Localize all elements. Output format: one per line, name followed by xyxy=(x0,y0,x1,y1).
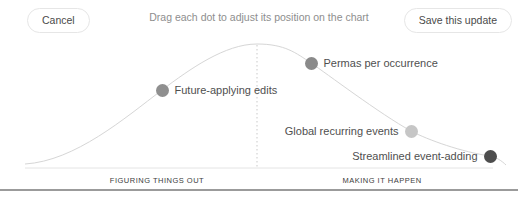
dot-icon[interactable] xyxy=(484,150,497,163)
bell-curve-chart xyxy=(0,0,518,198)
dot-position-editor: Cancel Drag each dot to adjust its posit… xyxy=(0,0,518,198)
dot-icon[interactable] xyxy=(305,57,318,70)
draggable-dot-global-recurring-events[interactable]: Global recurring events xyxy=(285,125,418,138)
dot-label: Streamlined event-adding xyxy=(352,150,477,162)
x-axis-label-figuring-things-out: FIGURING THINGS OUT xyxy=(110,176,204,185)
draggable-dot-permas-per-occurrence[interactable]: Permas per occurrence xyxy=(305,57,438,70)
draggable-dot-future-applying-edits[interactable]: Future-applying edits xyxy=(156,84,278,97)
dot-icon[interactable] xyxy=(405,125,418,138)
dot-label: Future-applying edits xyxy=(175,84,278,96)
dot-icon[interactable] xyxy=(156,84,169,97)
bottom-divider-line xyxy=(0,189,518,191)
dot-label: Global recurring events xyxy=(285,125,399,137)
dot-label: Permas per occurrence xyxy=(324,57,438,69)
draggable-dot-streamlined-event-adding[interactable]: Streamlined event-adding xyxy=(352,150,496,163)
x-axis-label-making-it-happen: MAKING IT HAPPEN xyxy=(342,176,421,185)
